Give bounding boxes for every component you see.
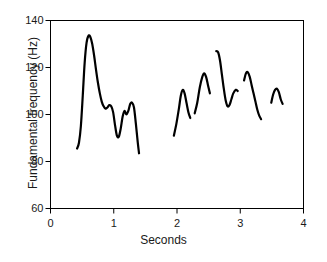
x-tick-label: 0	[31, 217, 71, 229]
data-line-group	[77, 35, 283, 153]
x-tick-label: 2	[157, 217, 197, 229]
data-line-segment-5	[244, 72, 261, 119]
x-tick-label: 3	[220, 217, 260, 229]
tick-marks	[46, 21, 304, 214]
data-line-segment-4	[216, 51, 238, 107]
x-axis-title: Seconds	[0, 233, 327, 247]
x-tick-label: 1	[94, 217, 134, 229]
y-axis-title: Fundamental frequency (Hz)	[26, 28, 40, 198]
data-line-segment-2	[174, 90, 190, 136]
y-tick-label: 60	[8, 202, 44, 214]
data-line-segment-1	[77, 35, 139, 153]
y-tick-label: 140	[8, 14, 44, 26]
figure-container: 6080100120140 01234 Seconds Fundamental …	[0, 0, 327, 262]
x-tick-label: 4	[284, 217, 324, 229]
data-line-segment-3	[195, 73, 210, 113]
data-line-segment-6	[271, 89, 282, 104]
